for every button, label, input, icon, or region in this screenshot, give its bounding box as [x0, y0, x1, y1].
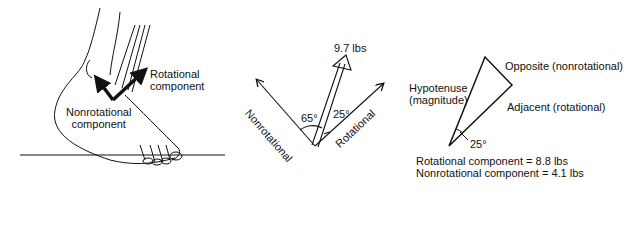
adjacent-label: Adjacent (rotational)	[507, 101, 605, 113]
label-line: Hypotenuse	[409, 82, 468, 94]
label-line: Nonrotational	[66, 106, 131, 118]
label-line: component	[150, 80, 204, 92]
label-line: (magnitude)	[409, 94, 468, 106]
nonrotational-component-label: Nonrotational component	[66, 106, 131, 130]
force-magnitude-label: 9.7 lbs	[334, 42, 366, 54]
angle-65-label: 65°	[301, 112, 318, 124]
opposite-label: Opposite (nonrotational)	[505, 60, 623, 72]
rotational-result: Rotational component = 8.8 lbs	[416, 155, 568, 167]
label-line: component	[66, 118, 131, 130]
hypotenuse-label: Hypotenuse (magnitude)	[409, 82, 468, 106]
label-line: Rotational	[150, 68, 204, 80]
rotational-component-label: Rotational component	[150, 68, 204, 92]
vector-diagram	[257, 55, 383, 147]
triangle-angle-label: 25°	[470, 138, 487, 150]
nonrotational-result: Nonrotational component = 4.1 lbs	[416, 167, 584, 179]
foot-force-arrows	[98, 72, 143, 100]
angle-25-label: 25°	[333, 108, 350, 120]
